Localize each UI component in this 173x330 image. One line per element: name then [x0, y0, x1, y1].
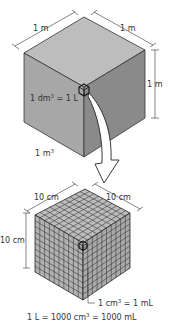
small-cube-left-edge-label: 10 cm — [34, 193, 59, 202]
large-cube-height-label: 1 m — [147, 80, 163, 89]
large-cube-right-edge-label: 1 m — [120, 24, 136, 33]
large-cube-volume-label: 1 m3 — [35, 148, 54, 158]
small-cube — [35, 189, 130, 300]
volume-diagram: 1 m 1 m 1 m 1 dm3 = 1 L 1 m3 10 — [0, 0, 173, 330]
small-cube-height-label: 10 cm — [0, 236, 25, 245]
cm3-label: 1 cm3 = 1 mL — [98, 298, 154, 308]
small-cube-right-edge-label: 10 cm — [106, 193, 131, 202]
large-cube — [24, 17, 145, 157]
large-cube-left-edge-label: 1 m — [33, 24, 49, 33]
dm3-label: 1 dm3 = 1 L — [30, 93, 78, 103]
conversion-equation: 1 L = 1000 cm3 = 1000 mL — [27, 312, 137, 322]
